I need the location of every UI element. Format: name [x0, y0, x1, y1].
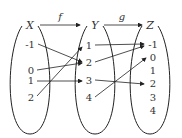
function-mapping-diagram: X Y Z f g -1 0 1 2 1 2 3 4 -1 0 1 2 3 4	[0, 0, 182, 138]
z-element: -1	[148, 39, 158, 50]
z-element: 2	[150, 78, 156, 89]
g-label: g	[119, 11, 125, 22]
g-map-arrow-2-to-neg1	[95, 46, 144, 62]
y-element: 2	[86, 57, 92, 68]
g-map-arrow-3-to-2	[95, 80, 144, 84]
y-element: 1	[86, 40, 92, 51]
g-map-arrow-1-to-neg1	[95, 44, 144, 45]
set-x-label: X	[25, 19, 35, 32]
x-element: 1	[28, 75, 34, 86]
z-element: 4	[150, 105, 156, 116]
y-element: 3	[86, 75, 92, 86]
g-map-arrow-4-to-0	[95, 58, 146, 97]
f-label: f	[57, 11, 64, 22]
z-element: 3	[150, 92, 156, 103]
z-element: 0	[150, 52, 156, 63]
set-z-label: Z	[145, 19, 154, 32]
z-element: 1	[150, 65, 156, 76]
y-element: 4	[86, 92, 92, 103]
set-y-label: Y	[91, 19, 100, 32]
x-element: -1	[25, 39, 35, 50]
x-element: 2	[28, 92, 34, 103]
f-map-arrow-neg1-to-2	[38, 44, 82, 62]
